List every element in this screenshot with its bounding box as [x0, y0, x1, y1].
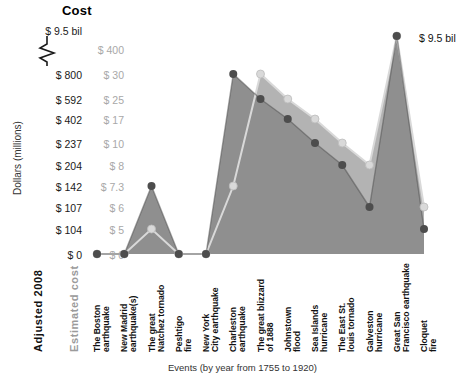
x-label-8: Sea Islandshurricane: [311, 305, 330, 352]
point-estimated-0: [93, 250, 101, 258]
x-label-3: Peshtigofire: [175, 316, 194, 352]
point-estimated-9: [338, 161, 346, 169]
x-label-4: New YorkCity earthquake: [202, 288, 221, 352]
x-label-5: Charlestonearthquake: [229, 306, 248, 352]
x-label-2: The greatNatchez tornado: [148, 285, 167, 352]
point-adjusted-9: [338, 139, 346, 147]
point-estimated-11: [393, 32, 401, 40]
point-adjusted-8: [311, 115, 319, 123]
point-estimated-5: [229, 70, 237, 78]
point-adjusted-7: [284, 95, 292, 103]
point-estimated-10: [366, 203, 374, 211]
point-estimated-7: [284, 115, 292, 123]
point-adjusted-6: [257, 70, 265, 78]
x-label-9: The East St.louis tornado: [338, 298, 357, 352]
x-label-10: Galvestonhurricane: [366, 310, 385, 352]
x-label-7: Johnstownflood: [284, 307, 303, 352]
point-estimated-3: [175, 250, 183, 258]
x-label-1: New Madridearthquake(s): [120, 296, 139, 352]
point-adjusted-12: [420, 203, 428, 211]
x-axis-label: Events (by year from 1755 to 1920): [168, 362, 317, 373]
x-label-6: The great blizzardof 1888: [257, 279, 276, 352]
x-label-0: The Bostonearthquake: [93, 305, 112, 352]
point-estimated-6: [257, 95, 265, 103]
point-estimated-2: [148, 182, 156, 190]
point-estimated-1: [120, 250, 128, 258]
point-adjusted-5: [229, 182, 237, 190]
point-estimated-8: [311, 139, 319, 147]
x-label-11: Great SanFrancisco earthquake: [393, 263, 412, 352]
point-adjusted-2: [148, 225, 156, 233]
point-estimated-12: [420, 225, 428, 233]
peak-annotation: $ 9.5 bil: [419, 32, 456, 44]
point-estimated-4: [202, 250, 210, 258]
point-adjusted-10: [366, 161, 374, 169]
x-label-12: Cloquetfire: [420, 320, 439, 352]
